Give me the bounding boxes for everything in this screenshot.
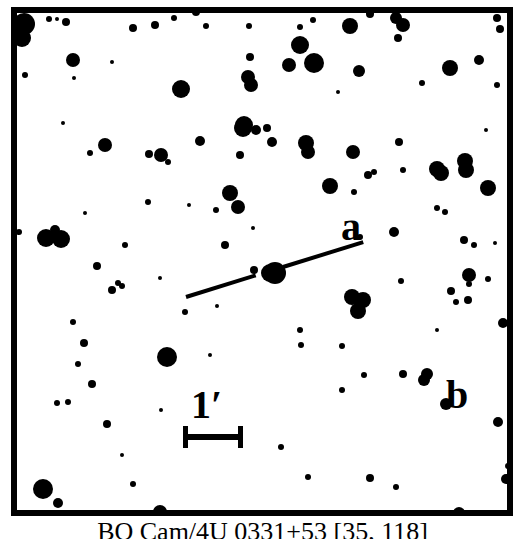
star xyxy=(157,347,177,367)
star xyxy=(87,150,93,156)
star xyxy=(301,145,315,159)
star xyxy=(208,353,212,357)
star xyxy=(394,34,402,42)
star xyxy=(304,53,324,73)
star xyxy=(215,304,219,308)
star xyxy=(339,387,345,393)
star xyxy=(72,76,76,80)
star xyxy=(241,70,255,84)
star xyxy=(480,180,496,196)
star xyxy=(192,13,200,16)
star xyxy=(213,207,219,213)
star xyxy=(298,342,304,348)
chart-caption: BQ Cam/4U 0331+53 [35, 118] xyxy=(0,518,525,539)
star xyxy=(54,400,60,406)
star xyxy=(336,90,340,94)
star xyxy=(399,370,407,378)
star xyxy=(350,303,366,319)
star xyxy=(496,25,504,33)
star xyxy=(494,82,500,88)
star xyxy=(203,23,209,29)
star xyxy=(398,278,404,284)
target-star-marker xyxy=(261,264,279,282)
star xyxy=(165,159,171,165)
star xyxy=(460,236,468,244)
star xyxy=(366,13,374,18)
star xyxy=(493,241,497,245)
star xyxy=(93,262,101,270)
star xyxy=(419,80,425,86)
star xyxy=(246,53,254,61)
star xyxy=(120,453,124,457)
star xyxy=(297,24,303,30)
star xyxy=(339,343,345,349)
star xyxy=(33,479,53,499)
star xyxy=(75,361,81,367)
star xyxy=(235,116,253,134)
star xyxy=(493,14,501,22)
star xyxy=(291,36,309,54)
star xyxy=(263,124,271,132)
star xyxy=(55,17,59,21)
star xyxy=(484,128,488,132)
star xyxy=(231,200,245,214)
star xyxy=(171,15,177,21)
star xyxy=(353,65,365,77)
star xyxy=(371,169,377,175)
star xyxy=(310,17,316,23)
star xyxy=(453,507,465,510)
star xyxy=(501,474,507,484)
star xyxy=(464,296,472,304)
star xyxy=(66,53,80,67)
star xyxy=(221,241,229,249)
star xyxy=(52,230,70,248)
star xyxy=(297,327,303,333)
star xyxy=(400,167,406,173)
star xyxy=(246,23,252,29)
star xyxy=(278,444,284,450)
star xyxy=(122,242,128,248)
star xyxy=(53,498,63,508)
star xyxy=(389,227,399,237)
star xyxy=(346,145,360,159)
star xyxy=(493,417,503,427)
star xyxy=(129,24,137,32)
star xyxy=(108,286,116,294)
star xyxy=(453,299,459,305)
star xyxy=(433,165,449,181)
star xyxy=(505,463,507,469)
star xyxy=(361,372,367,378)
star xyxy=(471,242,477,248)
star xyxy=(22,72,28,78)
star xyxy=(305,474,311,480)
scale-bar-rule xyxy=(183,434,243,440)
chart-frame: a b 1′ xyxy=(11,7,513,516)
star xyxy=(222,185,238,201)
star xyxy=(342,18,358,34)
star xyxy=(251,226,255,230)
star xyxy=(393,484,399,490)
scale-bar-label: 1′ xyxy=(191,385,222,425)
star xyxy=(474,55,484,65)
star xyxy=(61,121,65,125)
star xyxy=(46,16,52,22)
star xyxy=(17,229,22,235)
star xyxy=(130,481,136,487)
sky-field: a b 1′ xyxy=(17,13,507,510)
finding-chart-page: a b 1′ BQ Cam/4U 0331+53 [35, 118] xyxy=(0,0,525,539)
star xyxy=(236,151,244,159)
star xyxy=(442,60,458,76)
star xyxy=(103,420,111,428)
star xyxy=(98,138,112,152)
star xyxy=(173,81,189,97)
star xyxy=(322,178,338,194)
star xyxy=(187,203,191,207)
scale-bar-cap-right xyxy=(238,426,243,448)
star xyxy=(282,58,296,72)
star xyxy=(485,276,491,282)
object-label-a: a xyxy=(341,207,361,247)
star xyxy=(153,505,167,510)
star xyxy=(65,399,71,405)
star xyxy=(110,60,114,64)
star xyxy=(158,276,162,280)
